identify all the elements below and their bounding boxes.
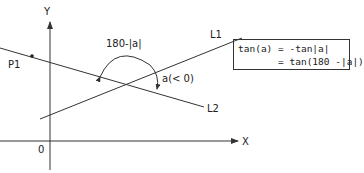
point-p1-label: P1 [8,59,20,70]
line-l2-label: L2 [207,103,219,114]
y-axis-label: Y [43,6,51,17]
origin-label: 0 [38,144,44,155]
formula-line-2: = tan(180 -|a|) [238,56,364,67]
line-l1-label: L1 [210,29,222,40]
formula-line-1: tan(a) = -tan|a| [238,43,330,54]
angle-a-arc [150,65,158,89]
formula-box: tan(a) = -tan|a| = tan(180 -|a|) [233,39,350,70]
supplement-angle-label: 180-|a| [106,38,142,50]
point-p1 [30,54,34,58]
supplement-angle-arc [100,56,150,77]
x-axis-label: X [242,136,249,147]
angle-a-label: a(< 0) [162,73,194,84]
